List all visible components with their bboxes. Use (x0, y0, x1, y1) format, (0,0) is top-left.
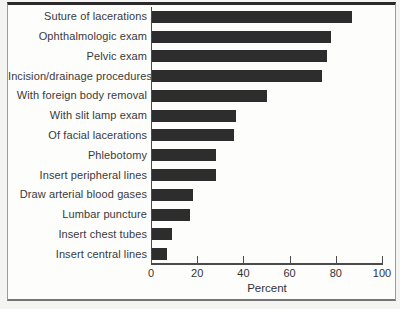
category-label: Insert chest tubes (8, 229, 151, 240)
category-label: Phlebotomy (8, 150, 151, 161)
x-axis-title: Percent (247, 283, 287, 295)
bar-chart: Suture of lacerationsOphthalmologic exam… (8, 5, 395, 299)
tick-mark (151, 256, 152, 263)
category-label: Lumbar puncture (8, 209, 151, 220)
tick-label: 80 (330, 268, 342, 279)
tick-mark (336, 256, 337, 263)
tick-label: 0 (148, 268, 154, 279)
tick-mark (197, 256, 198, 263)
tick-mark (382, 256, 383, 263)
tick-label: 40 (237, 268, 249, 279)
figure-frame: Suture of lacerationsOphthalmologic exam… (7, 2, 396, 301)
category-label: Of facial lacerations (8, 130, 151, 141)
category-label: Incision/drainage procedures (8, 71, 151, 82)
x-axis-ticks: 020406080100 (151, 5, 383, 299)
category-label: Pelvic exam (8, 51, 151, 62)
category-label: Ophthalmologic exam (8, 31, 151, 42)
category-label: With slit lamp exam (8, 110, 151, 121)
category-label: Suture of lacerations (8, 11, 151, 22)
tick-mark (290, 256, 291, 263)
category-label: Draw arterial blood gases (8, 189, 151, 200)
category-label: With foreign body removal (8, 90, 151, 101)
category-label: Insert central lines (8, 249, 151, 260)
tick-label: 60 (283, 268, 295, 279)
tick-label: 20 (191, 268, 203, 279)
category-label: Insert peripheral lines (8, 170, 151, 181)
tick-mark (243, 256, 244, 263)
tick-label: 100 (373, 268, 391, 279)
